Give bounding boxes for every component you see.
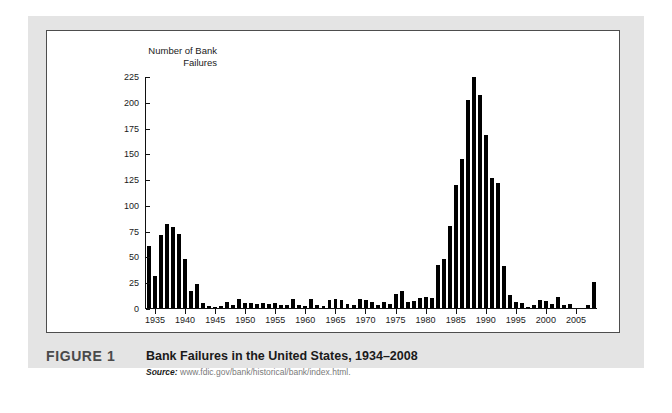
bar xyxy=(171,227,175,308)
y-tick-mark xyxy=(146,129,150,130)
y-tick-mark xyxy=(146,283,150,284)
x-tick-mark xyxy=(486,309,487,314)
bar xyxy=(334,299,338,308)
y-tick-mark xyxy=(146,77,150,78)
bar xyxy=(430,298,434,308)
bar xyxy=(249,303,253,308)
y-tick-label: 225 xyxy=(124,72,145,82)
bar xyxy=(364,300,368,308)
bar xyxy=(454,185,458,308)
bar xyxy=(279,305,283,308)
x-tick-label: 2005 xyxy=(566,315,586,325)
x-tick-label: 1935 xyxy=(145,315,165,325)
bar xyxy=(219,306,223,308)
x-tick-label: 1980 xyxy=(416,315,436,325)
y-tick-mark xyxy=(146,154,150,155)
bar-series xyxy=(146,77,597,308)
bar xyxy=(514,302,518,308)
figure-title: Bank Failures in the United States, 1934… xyxy=(146,349,418,363)
x-tick-label: 1995 xyxy=(506,315,526,325)
bar xyxy=(189,291,193,308)
x-tick-mark xyxy=(185,309,186,314)
x-tick-label: 1940 xyxy=(175,315,195,325)
figure-label: FIGURE 1 xyxy=(46,348,115,364)
x-axis-ticks: 1935194019451950195519601965197019751980… xyxy=(146,309,597,331)
x-tick-label: 1965 xyxy=(325,315,345,325)
x-tick-mark xyxy=(456,309,457,314)
bar xyxy=(213,307,217,308)
bar xyxy=(382,302,386,308)
bar xyxy=(243,303,247,308)
bar xyxy=(255,304,259,308)
y-tick-label: 175 xyxy=(124,124,145,134)
bar xyxy=(261,303,265,308)
bar xyxy=(153,276,157,308)
bar xyxy=(159,235,163,308)
x-tick-mark xyxy=(305,309,306,314)
bar xyxy=(424,297,428,308)
bar xyxy=(436,265,440,308)
bar xyxy=(237,299,241,308)
bar xyxy=(592,282,596,308)
bar xyxy=(177,234,181,308)
y-tick-mark xyxy=(146,309,150,310)
y-tick-mark xyxy=(146,232,150,233)
x-tick-mark xyxy=(396,309,397,314)
x-tick-label: 1975 xyxy=(386,315,406,325)
bar xyxy=(520,303,524,308)
bar xyxy=(418,298,422,308)
x-tick-label: 1955 xyxy=(265,315,285,325)
x-tick-label: 1960 xyxy=(295,315,315,325)
bar xyxy=(328,300,332,308)
x-tick-label: 1945 xyxy=(205,315,225,325)
bar xyxy=(388,304,392,308)
x-tick-mark xyxy=(516,309,517,314)
bar xyxy=(532,305,536,308)
x-tick-mark xyxy=(275,309,276,314)
bar xyxy=(309,299,313,308)
bar xyxy=(550,304,554,308)
source-prefix: Source: xyxy=(146,367,178,377)
chart-panel: Number of Bank Failures 1935194019451950… xyxy=(46,30,620,333)
x-tick-mark xyxy=(546,309,547,314)
bar xyxy=(340,300,344,308)
bar xyxy=(586,305,590,308)
bar xyxy=(502,266,506,308)
bar xyxy=(556,297,560,308)
bar xyxy=(147,246,151,308)
bar xyxy=(478,95,482,308)
bar xyxy=(370,302,374,308)
x-tick-label: 1950 xyxy=(235,315,255,325)
bar xyxy=(406,302,410,308)
x-tick-mark xyxy=(245,309,246,314)
x-tick-mark xyxy=(365,309,366,314)
bar xyxy=(400,291,404,308)
bar xyxy=(352,305,356,308)
y-tick-label: 75 xyxy=(129,227,145,237)
source-url: www.fdic.gov/bank/historical/bank/index.… xyxy=(180,367,351,377)
y-tick-label: 0 xyxy=(134,304,145,314)
y-tick-label: 25 xyxy=(129,278,145,288)
x-tick-mark xyxy=(155,309,156,314)
bar xyxy=(496,183,500,308)
bar xyxy=(165,224,169,308)
bar xyxy=(225,302,229,308)
y-tick-mark xyxy=(146,206,150,207)
bar xyxy=(538,300,542,308)
bar xyxy=(544,301,548,308)
x-tick-label: 2000 xyxy=(536,315,556,325)
bar xyxy=(568,304,572,308)
bar xyxy=(231,305,235,308)
figure-source: Source: www.fdic.gov/bank/historical/ban… xyxy=(146,367,351,377)
bar xyxy=(273,303,277,308)
x-tick-mark xyxy=(215,309,216,314)
bar xyxy=(376,305,380,308)
y-tick-mark xyxy=(146,257,150,258)
bar xyxy=(207,306,211,308)
bar xyxy=(394,294,398,308)
bar xyxy=(472,77,476,308)
bar xyxy=(508,295,512,308)
y-tick-label: 125 xyxy=(124,175,145,185)
bar xyxy=(315,305,319,308)
bar xyxy=(291,299,295,308)
